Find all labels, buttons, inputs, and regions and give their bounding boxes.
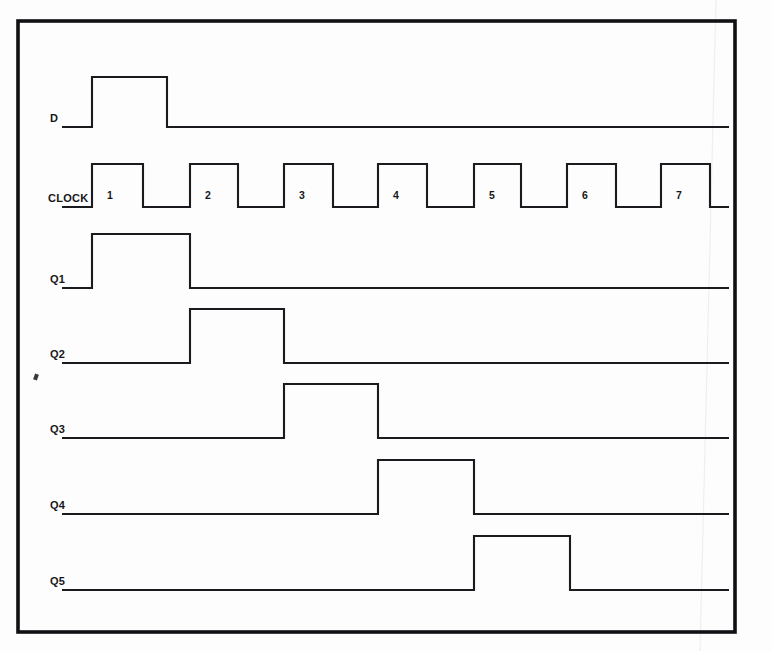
waveform-group (62, 77, 729, 590)
signal-label-q5: Q5 (50, 575, 65, 587)
clock-number-5: 5 (489, 189, 495, 201)
waveform-q2 (62, 309, 729, 363)
clock-number-6: 6 (582, 189, 588, 201)
clock-number-2: 2 (205, 189, 211, 201)
signal-label-q1: Q1 (50, 273, 65, 285)
clock-number-group: 1234567 (107, 189, 682, 201)
clock-number-7: 7 (676, 189, 682, 201)
clock-number-1: 1 (107, 189, 113, 201)
scan-artifact-group (33, 0, 716, 651)
signal-label-q4: Q4 (50, 499, 66, 511)
waveform-q4 (62, 460, 729, 514)
clock-number-4: 4 (393, 189, 399, 201)
waveform-q5 (62, 536, 729, 590)
timing-diagram-figure: DCLOCKQ1Q2Q3Q4Q5 1234567 (0, 0, 772, 651)
diagram-frame-border (18, 21, 735, 632)
signal-label-clock: CLOCK (48, 192, 89, 204)
signal-label-q2: Q2 (50, 348, 65, 360)
signal-label-d: D (50, 112, 58, 124)
signal-label-q3: Q3 (50, 423, 65, 435)
waveform-q3 (62, 384, 729, 438)
signal-label-group: DCLOCKQ1Q2Q3Q4Q5 (48, 112, 89, 587)
waveform-d (62, 77, 729, 127)
figure-page: DCLOCKQ1Q2Q3Q4Q5 1234567 (0, 0, 772, 651)
clock-number-3: 3 (299, 189, 305, 201)
scan-seam-line (700, 0, 716, 651)
waveform-q1 (62, 234, 729, 288)
scan-speck (33, 373, 39, 380)
